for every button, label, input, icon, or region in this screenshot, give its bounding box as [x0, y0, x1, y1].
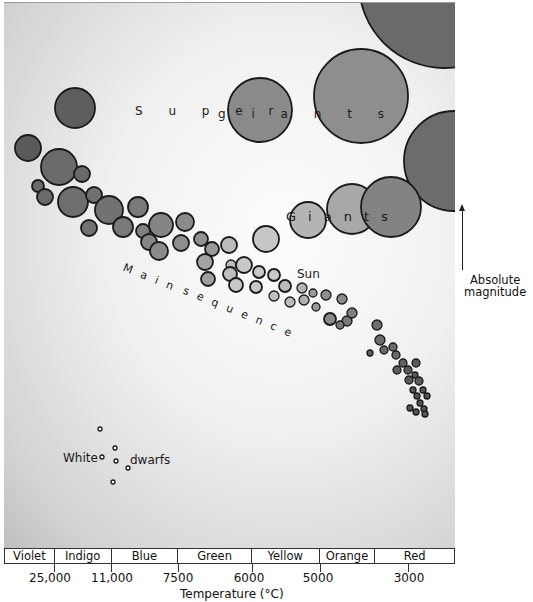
star-circle [197, 254, 213, 270]
star-circle [236, 257, 252, 273]
star-circle [253, 226, 279, 252]
star-circle [285, 297, 295, 307]
x-tick-label: 11,000 [91, 571, 133, 585]
star-circle [413, 409, 419, 415]
star-circle [111, 480, 115, 484]
star-circle [337, 294, 347, 304]
star-circle [367, 350, 373, 356]
band-red: Red [375, 549, 454, 563]
star-circle [407, 405, 413, 411]
dwarfs-label: dwarfs [130, 453, 170, 467]
band-green: Green [178, 549, 252, 563]
star-circle [113, 217, 133, 237]
star-circle [297, 283, 307, 293]
star-circle [404, 366, 412, 374]
y-axis-arrow [462, 208, 463, 270]
star-circle [41, 149, 77, 185]
star-circle [250, 281, 262, 293]
x-tick-label: 6000 [234, 571, 265, 585]
star-circle [321, 290, 331, 300]
star-circle [150, 242, 168, 260]
star-circle [98, 427, 102, 431]
x-tick-label: 25,000 [29, 571, 71, 585]
star-circle [361, 177, 421, 237]
star-circle [279, 280, 291, 292]
star-circle [176, 213, 194, 231]
star-circle [128, 197, 148, 217]
y-axis-label: Absolute magnitude [464, 274, 526, 298]
star-circle [58, 187, 88, 217]
star-circle [347, 308, 357, 318]
star-circle [15, 135, 41, 161]
x-tick-label: 3000 [394, 571, 425, 585]
star-circle [229, 278, 243, 292]
star-circle [399, 359, 407, 367]
star-circle [55, 88, 95, 128]
star-circle [415, 377, 423, 385]
star-circle [417, 400, 423, 406]
white-label: White [63, 451, 98, 465]
star-circle [412, 359, 420, 367]
star-circle [74, 166, 90, 182]
star-circle [380, 346, 388, 354]
star-circle [201, 272, 215, 286]
star-circle [309, 289, 317, 297]
star-circle [312, 303, 320, 311]
star-circle [324, 313, 336, 325]
giants-label: Giants [286, 209, 400, 224]
x-tick-label: 7500 [163, 571, 194, 585]
star-circle [253, 266, 265, 278]
band-yellow: Yellow [252, 549, 320, 563]
star-circle [221, 237, 237, 253]
star-circle [420, 387, 426, 393]
band-blue: Blue [112, 549, 179, 563]
star-circle [405, 376, 413, 384]
band-indigo: Indigo [55, 549, 112, 563]
star-circle [268, 269, 280, 281]
x-axis-title: Temperature (°C) [180, 587, 284, 601]
star-circle [422, 411, 428, 417]
hr-diagram-plot: S u p e r g i a n t s Giants Main sequen… [4, 2, 455, 549]
band-orange: Orange [320, 549, 376, 563]
star-circle [375, 335, 385, 345]
star-circles [4, 3, 455, 549]
sun-label: Sun [297, 267, 320, 281]
x-tick-label: 5000 [303, 571, 334, 585]
star-circle [173, 235, 189, 251]
star-circle [37, 189, 53, 205]
color-band: Violet Indigo Blue Green Yellow Orange R… [4, 548, 455, 564]
star-circle [336, 321, 344, 329]
star-circle [393, 366, 401, 374]
star-circle [414, 393, 420, 399]
star-circle [113, 446, 117, 450]
star-circle [424, 393, 430, 399]
supergiants-label-part2: g i a n t s [218, 107, 395, 121]
star-circle [392, 351, 400, 359]
star-circle [194, 232, 208, 246]
star-circle [389, 343, 397, 351]
star-circle [372, 320, 382, 330]
star-circle [410, 387, 416, 393]
star-circle [269, 291, 279, 301]
star-circle [114, 459, 118, 463]
band-violet: Violet [5, 549, 55, 563]
star-circle [299, 295, 309, 305]
star-circle [314, 49, 408, 143]
star-circle [149, 213, 173, 237]
star-circle [81, 220, 97, 236]
star-circle [100, 455, 104, 459]
